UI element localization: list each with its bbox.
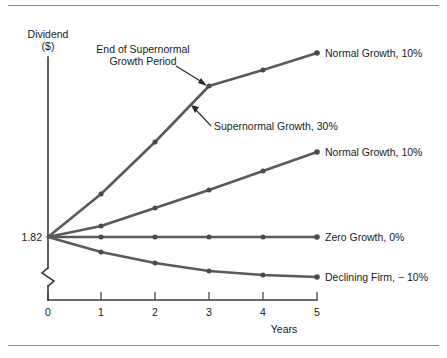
marker-normal-y2: [153, 206, 158, 211]
series-label-declining-firm: Declining Firm, − 10%: [325, 271, 428, 283]
series-line-supernormal-growth: [48, 53, 317, 237]
marker-declining-y2: [153, 261, 158, 266]
annotation-supernormal-growth-leader: [196, 110, 211, 126]
marker-supernormal-y1: [99, 192, 104, 197]
marker-normal-y3: [207, 188, 212, 193]
annotation-end-supernormal-arrowhead: [198, 78, 207, 86]
annotation-end-supernormal-line1: End of Supernormal: [96, 43, 189, 55]
x-tick-label-1: 1: [98, 306, 104, 318]
marker-declining-y4: [261, 273, 266, 278]
x-tick-label-5: 5: [314, 306, 320, 318]
annotation-end-supernormal-leader: [176, 66, 202, 82]
x-tick-label-3: 3: [206, 306, 212, 318]
marker-normal-y4: [261, 169, 266, 174]
annotation-supernormal-growth-label: Supernormal Growth, 30%: [214, 120, 338, 132]
marker-zero-y3: [207, 235, 212, 240]
marker-supernormal-y2: [153, 140, 158, 145]
y-axis-label-line2: ($): [42, 40, 55, 52]
series-label-normal-growth: Normal Growth, 10%: [325, 146, 422, 158]
x-tick-label-2: 2: [152, 306, 158, 318]
marker-zero-y2: [153, 235, 158, 240]
x-axis-title: Years: [271, 323, 297, 335]
marker-supernormal-y4: [261, 68, 266, 73]
y-axis-label-line1: Dividend: [28, 28, 69, 40]
marker-zero-y1: [99, 235, 104, 240]
marker-declining-y5: [314, 274, 320, 280]
annotation-end-supernormal-line2: Growth Period: [109, 55, 176, 67]
marker-declining-y3: [207, 269, 212, 274]
series-label-supernormal-normal-growth: Normal Growth, 10%: [325, 47, 422, 59]
x-tick-label-0: 0: [45, 306, 51, 318]
x-tick-label-4: 4: [260, 306, 266, 318]
figure-container: Dividend ($) 0 1 2 3 4 5 Years 1.82: [0, 0, 447, 358]
marker-supernormal-y3: [207, 84, 212, 89]
series-label-zero-growth: Zero Growth, 0%: [325, 231, 404, 243]
marker-normal-y5: [314, 149, 320, 155]
marker-declining-y1: [99, 250, 104, 255]
series-line-normal-growth: [48, 152, 317, 237]
series-line-declining-firm: [48, 237, 317, 277]
marker-zero-y4: [261, 235, 266, 240]
dividend-growth-chart: Dividend ($) 0 1 2 3 4 5 Years 1.82: [0, 0, 447, 358]
marker-supernormal-y5: [314, 50, 320, 56]
marker-normal-y1: [99, 224, 104, 229]
marker-zero-y5: [314, 234, 320, 240]
y-base-value-label: 1.82: [22, 231, 43, 243]
y-axis-break-symbol: [42, 268, 54, 286]
